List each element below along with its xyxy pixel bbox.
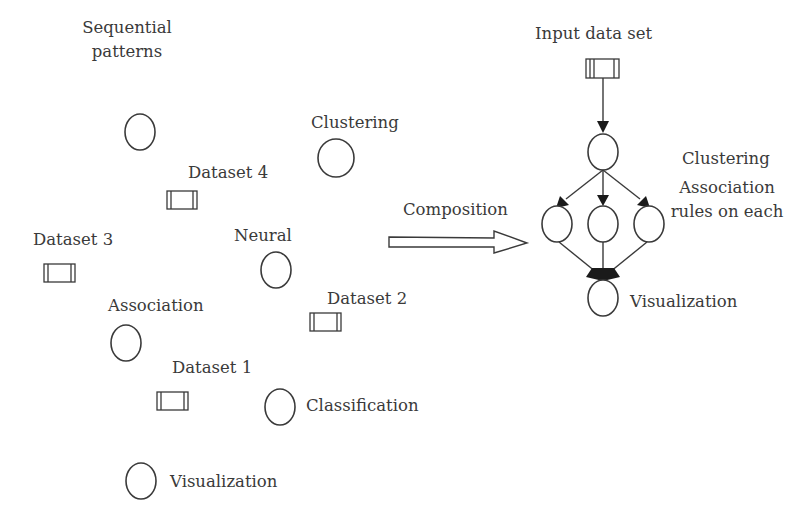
- association-step-node-2: [588, 206, 618, 242]
- input-dataset-icon: [586, 59, 619, 78]
- dataset4-label: Dataset 4: [188, 165, 268, 182]
- association-rules-label: Association rules on each: [671, 176, 784, 224]
- classification-node: [265, 389, 295, 425]
- dataset2-icon: [310, 313, 341, 331]
- association-step-node-3: [634, 206, 664, 242]
- dataset3-icon: [44, 264, 75, 282]
- composition-label: Composition: [403, 202, 508, 219]
- composition-arrow-icon: [389, 231, 527, 253]
- edge-assoc-3-to-visualization: [610, 242, 647, 272]
- clustering-step-node: [588, 134, 618, 170]
- association-node: [111, 325, 141, 361]
- visualization-node: [126, 463, 156, 499]
- visualization-label: Visualization: [170, 474, 277, 491]
- association-label: Association: [108, 298, 204, 315]
- sequential-patterns-node: [125, 114, 155, 150]
- visualization-step-node: [588, 280, 618, 316]
- dataset3-label: Dataset 3: [33, 232, 113, 249]
- arrowhead-icon: [597, 195, 609, 206]
- edge-clustering-to-assoc-3: [603, 170, 640, 199]
- clustering-label: Clustering: [311, 115, 399, 132]
- dataset4-icon: [167, 191, 197, 209]
- merged-arrowhead-icon: [586, 268, 620, 281]
- visualization-step-label: Visualization: [630, 294, 737, 311]
- clustering-step-label: Clustering: [682, 151, 770, 168]
- classification-label: Classification: [306, 398, 419, 415]
- edge-assoc-1-to-visualization: [559, 242, 596, 272]
- dataset1-label: Dataset 1: [172, 360, 252, 377]
- arrowhead-icon: [597, 121, 609, 133]
- composition-diagram: Sequential patterns Clustering Dataset 4…: [0, 0, 808, 529]
- edge-clustering-to-assoc-1: [566, 170, 603, 199]
- neural-label: Neural: [234, 228, 292, 245]
- association-step-node-1: [542, 206, 572, 242]
- dataset2-label: Dataset 2: [327, 291, 407, 308]
- diagram-svg: [0, 0, 808, 529]
- clustering-node: [318, 139, 354, 177]
- dataset1-icon: [157, 392, 188, 410]
- neural-node: [261, 252, 291, 288]
- sequential-patterns-label: Sequential patterns: [82, 16, 172, 64]
- input-data-set-label: Input data set: [535, 26, 652, 43]
